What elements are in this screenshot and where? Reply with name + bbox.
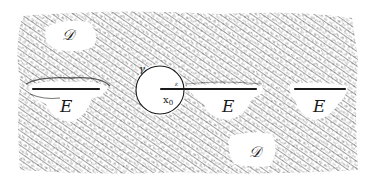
label-E-middle: E bbox=[221, 96, 235, 116]
domain-diagram: 𝒟 E E E 𝒟 γ ε x0 bbox=[0, 0, 377, 180]
label-E-right: E bbox=[312, 96, 326, 116]
label-x0-sub: 0 bbox=[169, 99, 173, 107]
label-radius: ε bbox=[175, 80, 178, 87]
label-gamma: γ bbox=[139, 63, 145, 74]
label-E-left: E bbox=[59, 96, 73, 116]
